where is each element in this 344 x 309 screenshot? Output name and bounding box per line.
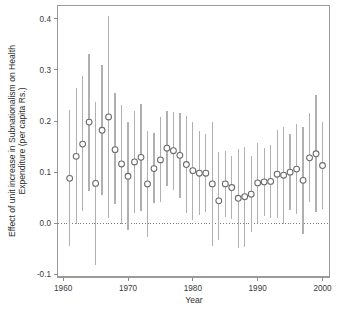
data-point	[196, 170, 202, 176]
data-point	[73, 153, 79, 159]
y-axis-ticks: -0.10.00.10.20.30.4	[37, 15, 58, 280]
data-point	[300, 177, 306, 183]
data-point	[203, 170, 209, 176]
data-point	[320, 163, 326, 169]
data-point	[248, 191, 254, 197]
data-point	[268, 178, 274, 184]
x-tick-label: 1980	[184, 284, 203, 293]
error-bar-group	[70, 16, 323, 265]
data-point	[294, 166, 300, 172]
data-point	[119, 161, 125, 167]
y-axis-title-line1: Effect of unit increase in Subnationalis…	[7, 45, 17, 237]
data-point	[93, 181, 99, 187]
data-point	[99, 127, 105, 133]
x-tick-label: 1990	[249, 284, 268, 293]
data-point	[145, 181, 151, 187]
y-tick-label: 0.1	[40, 168, 52, 177]
data-point	[132, 159, 138, 165]
data-point	[255, 180, 261, 186]
scatter-plot-canvas: -0.10.00.10.20.30.4 19601970198019902000…	[0, 0, 344, 309]
data-point	[106, 114, 112, 120]
y-tick-label: 0.4	[40, 15, 52, 24]
y-tick-label: 0.0	[40, 219, 52, 228]
x-tick-label: 2000	[313, 284, 332, 293]
data-point	[313, 151, 319, 157]
data-point-group	[67, 114, 326, 204]
plot-frame	[58, 6, 330, 278]
data-point	[216, 198, 222, 204]
data-point	[281, 172, 287, 178]
y-tick-label: 0.3	[40, 66, 52, 75]
data-point	[164, 145, 170, 151]
data-point	[209, 181, 215, 187]
data-point	[183, 162, 189, 168]
data-point	[151, 166, 157, 172]
data-point	[261, 179, 267, 185]
data-point	[67, 175, 73, 181]
data-point	[177, 152, 183, 158]
data-point	[112, 147, 118, 153]
data-point	[235, 195, 241, 201]
data-point	[274, 171, 280, 177]
data-point	[307, 155, 313, 161]
data-point	[80, 141, 86, 147]
x-axis-ticks: 19601970198019902000	[54, 277, 332, 293]
data-point	[171, 148, 177, 154]
x-tick-label: 1960	[54, 284, 73, 293]
y-axis-title-line2: Expenditure (per capita Rs.)	[17, 87, 27, 194]
x-axis-title: Year	[185, 295, 203, 305]
x-tick-label: 1970	[119, 284, 138, 293]
data-point	[86, 119, 92, 125]
data-point	[125, 173, 131, 179]
data-point	[158, 157, 164, 163]
data-point	[190, 168, 196, 174]
y-tick-label: -0.1	[37, 270, 52, 279]
data-point	[229, 185, 235, 191]
y-tick-label: 0.2	[40, 117, 52, 126]
data-point	[138, 154, 144, 160]
data-point	[242, 194, 248, 200]
data-point	[287, 169, 293, 175]
data-point	[222, 181, 228, 187]
chart-figure: -0.10.00.10.20.30.4 19601970198019902000…	[0, 0, 344, 309]
